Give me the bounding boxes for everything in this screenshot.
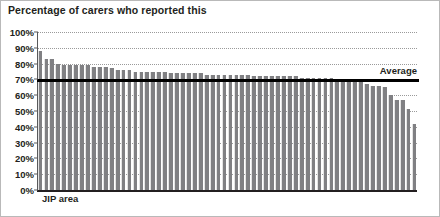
y-axis: 100%90%80%70%60%50%40%30%20%10%0% (1, 32, 34, 190)
y-axis-tick-mark (34, 63, 38, 64)
y-axis-tick-mark (34, 158, 38, 159)
bar (109, 68, 114, 190)
y-axis-tick-mark (34, 174, 38, 175)
bar (311, 78, 316, 190)
bar (382, 87, 387, 190)
y-axis-tick-label: 100% (10, 27, 34, 38)
plot-area (37, 32, 417, 190)
chart-figure: Percentage of carers who reported this 1… (0, 0, 440, 217)
bar (376, 86, 381, 190)
bar (210, 75, 215, 190)
bar (127, 70, 132, 190)
bar (186, 73, 191, 190)
y-axis-tick-label: 90% (15, 42, 34, 53)
bar (91, 67, 96, 190)
y-axis-tick-label: 50% (15, 106, 34, 117)
bar (204, 75, 209, 190)
y-axis-tick-label: 40% (15, 121, 34, 132)
bar (358, 81, 363, 190)
bar (156, 72, 161, 191)
bar (257, 76, 262, 190)
bar (97, 67, 102, 190)
y-axis-tick-label: 20% (15, 153, 34, 164)
y-axis-tick-label: 0% (20, 185, 34, 196)
bar (251, 76, 256, 190)
bar (144, 72, 149, 191)
y-axis-tick-mark (34, 79, 38, 80)
bar (370, 86, 375, 190)
y-axis-tick-mark (34, 190, 38, 191)
bar (305, 78, 310, 190)
y-axis-tick-label: 70% (15, 74, 34, 85)
bar (263, 76, 268, 190)
bar (115, 70, 120, 190)
bar (406, 109, 411, 190)
y-axis-tick-label: 10% (15, 169, 34, 180)
bar (293, 76, 298, 190)
bar (150, 72, 155, 191)
chart-title: Percentage of carers who reported this (8, 4, 207, 16)
bar (340, 79, 345, 190)
bar (281, 76, 286, 190)
bar (323, 78, 328, 190)
bar (55, 64, 60, 190)
x-axis-line (37, 190, 417, 192)
bar-series (37, 32, 417, 190)
y-axis-tick-label: 30% (15, 137, 34, 148)
bar (364, 84, 369, 190)
y-axis-tick-mark (34, 47, 38, 48)
bar (121, 70, 126, 190)
bar (317, 78, 322, 190)
bar (162, 72, 167, 191)
bar (329, 78, 334, 190)
bar (198, 73, 203, 190)
bar (133, 72, 138, 191)
bar (352, 79, 357, 190)
y-axis-tick-label: 60% (15, 90, 34, 101)
bar (346, 79, 351, 190)
bar (216, 75, 221, 190)
bar (38, 51, 43, 190)
bar (180, 73, 185, 190)
bar (168, 73, 173, 190)
y-axis-tick-mark (34, 126, 38, 127)
bar (412, 124, 417, 190)
bar (192, 73, 197, 190)
bar (67, 65, 72, 190)
average-reference-line (37, 79, 419, 82)
bar (245, 75, 250, 190)
bar (234, 75, 239, 190)
bar (73, 65, 78, 190)
bar (275, 76, 280, 190)
average-label: Average (380, 65, 417, 76)
bar (239, 75, 244, 190)
bar (394, 100, 399, 190)
y-axis-tick-mark (34, 95, 38, 96)
bar (334, 79, 339, 190)
bar (287, 76, 292, 190)
bar (388, 95, 393, 190)
y-axis-tick-mark (34, 111, 38, 112)
bar (400, 100, 405, 190)
y-axis-tick-mark (34, 32, 38, 33)
bar (299, 78, 304, 190)
bar (139, 72, 144, 191)
x-axis-label: JIP area (42, 193, 78, 204)
bar (85, 65, 90, 190)
bar (61, 65, 66, 190)
y-axis-tick-mark (34, 142, 38, 143)
bar (103, 67, 108, 190)
y-axis-tick-label: 80% (15, 58, 34, 69)
bar (222, 75, 227, 190)
bar (79, 65, 84, 190)
bar (174, 73, 179, 190)
bar (228, 75, 233, 190)
bar (269, 76, 274, 190)
